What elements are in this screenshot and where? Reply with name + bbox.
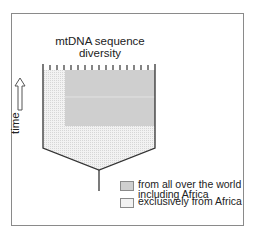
time-axis-label: time <box>9 112 21 134</box>
tick-marks <box>50 65 148 70</box>
time-arrow-icon <box>15 78 25 110</box>
legend-item-africa: exclusively from Africa <box>120 196 242 208</box>
legend-swatch-world <box>120 181 134 191</box>
legend-africa-line-1: exclusively from Africa <box>138 196 242 206</box>
world-region <box>65 70 155 126</box>
legend-label-africa: exclusively from Africa <box>138 196 242 206</box>
legend-swatch-africa <box>120 198 134 208</box>
